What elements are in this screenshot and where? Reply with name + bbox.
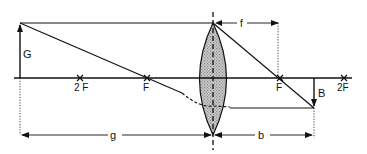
- image-label: B: [318, 87, 325, 99]
- svg-text:2 F: 2 F: [74, 82, 88, 93]
- ray-focal: [20, 23, 182, 93]
- svg-text:F: F: [276, 82, 282, 93]
- ray-parallel-refracted: [213, 23, 314, 108]
- object-distance-label: g: [110, 129, 116, 141]
- focal-length-label: f: [240, 18, 243, 29]
- image-distance-label: b: [258, 129, 264, 141]
- object-label: G: [23, 48, 32, 60]
- lens-diagram: G B 2 F F F 2F f g b: [0, 0, 367, 154]
- svg-text:2F: 2F: [337, 82, 349, 93]
- svg-text:F: F: [143, 82, 149, 93]
